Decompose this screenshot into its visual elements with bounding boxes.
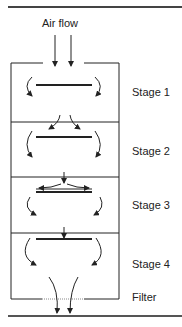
bottom-rule xyxy=(8,315,182,317)
stage-1-label: Stage 1 xyxy=(132,86,170,98)
stage-3-flow xyxy=(27,172,102,215)
stage-1-flow xyxy=(27,77,100,96)
inlet-arrows xyxy=(55,35,71,66)
stage-2-flow xyxy=(27,115,100,157)
stage-3-label: Stage 3 xyxy=(132,199,170,211)
outlet-arrows xyxy=(49,277,78,313)
housing xyxy=(11,63,119,299)
impactor-diagram xyxy=(0,0,182,327)
filter-label: Filter xyxy=(132,291,156,303)
stage-4-label: Stage 4 xyxy=(132,258,170,270)
stage-2-label: Stage 2 xyxy=(132,145,170,157)
